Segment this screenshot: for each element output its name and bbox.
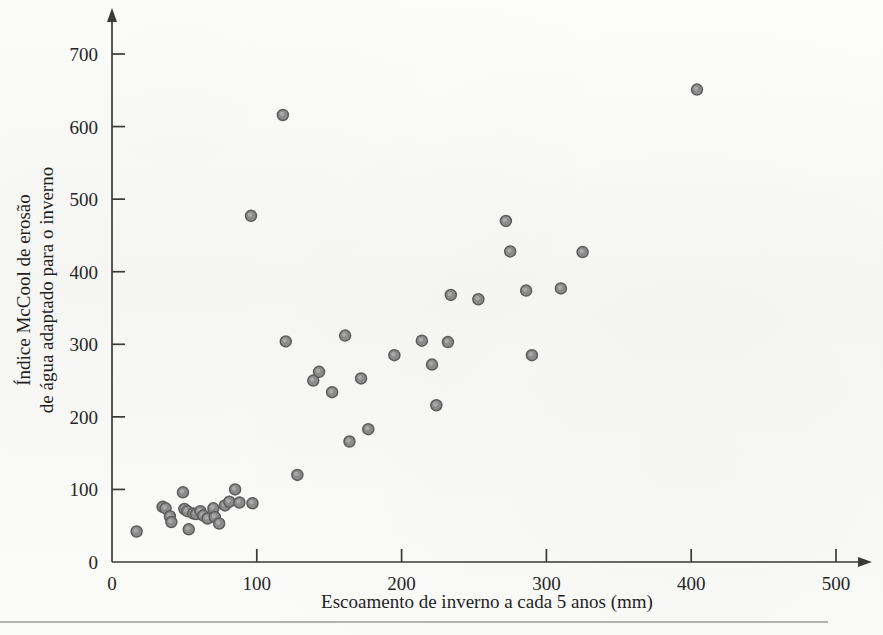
data-point-highlight [280, 112, 284, 116]
data-point-highlight [448, 292, 452, 296]
data-point [356, 373, 367, 384]
x-tick-label: 500 [822, 573, 851, 594]
x-tick-label: 0 [107, 573, 117, 594]
y-tick-label: 300 [70, 334, 99, 355]
data-point-highlight [133, 528, 137, 532]
data-point-highlight [162, 505, 166, 509]
data-point [473, 294, 484, 305]
data-point [177, 487, 188, 498]
data-point-highlight [283, 338, 287, 342]
data-point-highlight [475, 296, 479, 300]
x-tick-label: 100 [243, 573, 272, 594]
data-point-highlight [210, 505, 214, 509]
y-axis-title-line1: Índice McCool de erosão [13, 194, 34, 386]
x-tick-label: 400 [677, 573, 706, 594]
data-point-highlight [694, 86, 698, 90]
data-point [691, 84, 702, 95]
data-point [500, 215, 511, 226]
data-point-highlight [419, 337, 423, 341]
data-point-highlight [168, 519, 172, 523]
data-point-highlight [236, 499, 240, 503]
x-axis-title: Escoamento de inverno a cada 5 anos (mm) [321, 591, 653, 613]
y-tick-group: 0100200300400500600700 [70, 44, 126, 573]
data-point [280, 336, 291, 347]
data-point [427, 359, 438, 370]
data-point-highlight [523, 287, 527, 291]
data-point [327, 387, 338, 398]
data-point [442, 337, 453, 348]
data-point-highlight [391, 352, 395, 356]
scatter-plot: 0100200300400500600700 0100200300400500 … [0, 0, 883, 635]
data-point [344, 436, 355, 447]
x-axis [112, 557, 872, 567]
y-tick-label: 200 [70, 407, 99, 428]
data-point-highlight [445, 339, 449, 343]
data-point-highlight [433, 402, 437, 406]
y-tick-label: 600 [70, 117, 99, 138]
y-axis-arrow [107, 8, 117, 22]
data-point-highlight [216, 520, 220, 524]
data-point [234, 497, 245, 508]
data-point-highlight [329, 389, 333, 393]
data-point-highlight [346, 438, 350, 442]
data-point-highlight [294, 472, 298, 476]
data-point [389, 350, 400, 361]
data-point-highlight [186, 526, 190, 530]
y-tick-label: 500 [70, 189, 99, 210]
data-point [526, 350, 537, 361]
data-point-highlight [507, 248, 511, 252]
data-point [505, 246, 516, 257]
data-point [363, 424, 374, 435]
y-axis-title-line2: de água adaptado para o inverno [36, 167, 57, 413]
data-point [416, 335, 427, 346]
y-tick-label: 0 [89, 552, 99, 573]
data-point-highlight [249, 500, 253, 504]
x-tick-group: 0100200300400500 [107, 549, 850, 594]
data-point [246, 210, 257, 221]
data-point-highlight [316, 369, 320, 373]
x-axis-arrow [858, 557, 872, 567]
data-point [555, 283, 566, 294]
data-point-highlight [365, 426, 369, 430]
data-point-highlight [212, 514, 216, 518]
data-point-highlight [579, 249, 583, 253]
y-tick-label: 700 [70, 44, 99, 65]
data-point [224, 496, 235, 507]
data-point-highlight [232, 486, 236, 490]
data-point-highlight [358, 375, 362, 379]
data-point-highlight [342, 332, 346, 336]
plot-svg: 0100200300400500600700 0100200300400500 … [0, 0, 883, 635]
y-tick-label: 100 [70, 479, 99, 500]
data-point [277, 109, 288, 120]
y-axis [107, 8, 117, 562]
data-point-highlight [226, 499, 230, 503]
data-point [314, 366, 325, 377]
data-point [521, 285, 532, 296]
y-tick-label: 400 [70, 262, 99, 283]
data-point-highlight [529, 352, 533, 356]
figure-container: 0100200300400500600700 0100200300400500 … [0, 0, 883, 635]
data-points-layer [131, 84, 702, 537]
data-point [230, 484, 241, 495]
data-point [445, 289, 456, 300]
data-point-highlight [503, 218, 507, 222]
data-point [166, 517, 177, 528]
data-point [292, 469, 303, 480]
data-point [131, 526, 142, 537]
data-point [577, 247, 588, 258]
data-point [247, 498, 258, 509]
data-point-highlight [248, 213, 252, 217]
data-point [431, 400, 442, 411]
data-point [183, 524, 194, 535]
data-point-highlight [429, 361, 433, 365]
data-point-highlight [204, 515, 208, 519]
data-point [340, 330, 351, 341]
data-point-highlight [310, 377, 314, 381]
data-point-highlight [558, 285, 562, 289]
data-point [214, 518, 225, 529]
data-point-highlight [180, 489, 184, 493]
